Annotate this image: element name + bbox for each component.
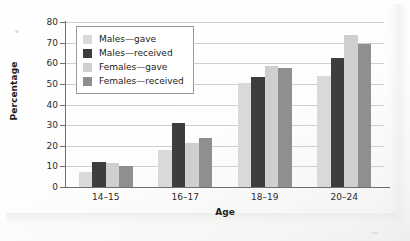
bar <box>172 123 186 187</box>
y-axis-tick-label: 80 <box>34 18 58 27</box>
chart-legend: Males—gaveMales—receivedFemales—gaveFema… <box>76 26 194 94</box>
y-axis-tick-mark <box>60 43 66 44</box>
legend-row: Males—received <box>83 46 184 60</box>
legend-label: Males—received <box>99 49 173 58</box>
y-axis-tick-mark <box>60 84 66 85</box>
legend-row: Males—gave <box>83 32 184 46</box>
bar <box>92 162 106 187</box>
bar <box>317 76 331 187</box>
x-axis-title: Age <box>66 207 384 217</box>
bar <box>331 58 345 187</box>
x-axis-tick-label: 20–24 <box>309 192 379 202</box>
y-axis-tick-mark <box>60 63 66 64</box>
bar <box>278 68 292 187</box>
gridline <box>66 187 384 188</box>
y-axis-tick-mark <box>60 166 66 167</box>
y-axis-title: Percentage <box>9 46 19 136</box>
legend-row: Females—received <box>83 74 184 88</box>
bar <box>79 172 93 187</box>
y-axis-tick-label: 20 <box>34 142 58 151</box>
bar <box>119 166 133 187</box>
legend-label: Females—received <box>99 77 184 86</box>
x-axis-tick-label: 14–15 <box>71 192 141 202</box>
legend-swatch <box>83 63 92 72</box>
y-axis-tick-label: 60 <box>34 59 58 68</box>
x-axis-tick-label: 16–17 <box>150 192 220 202</box>
bar <box>344 35 358 187</box>
legend-swatch <box>83 77 92 86</box>
y-axis-tick-mark <box>60 125 66 126</box>
legend-swatch <box>83 49 92 58</box>
y-axis-tick-mark <box>60 22 66 23</box>
bar <box>185 143 199 187</box>
y-axis-tick-mark <box>60 146 66 147</box>
y-axis-tick-label: 30 <box>34 121 58 130</box>
gridline <box>66 22 384 23</box>
legend-swatch <box>83 35 92 44</box>
y-axis-tick-label: 70 <box>34 39 58 48</box>
y-axis-tick-label: 40 <box>34 101 58 110</box>
y-axis-tick-labels: 01020304050607080 <box>30 0 58 241</box>
grouped-bar-chart: Percentage 01020304050607080 14–1516–171… <box>0 0 410 241</box>
y-axis-tick-mark <box>60 105 66 106</box>
y-axis-tick-mark <box>60 187 66 188</box>
legend-label: Males—gave <box>99 35 156 44</box>
legend-label: Females—gave <box>99 63 167 72</box>
bar <box>158 150 172 187</box>
bar <box>106 163 120 187</box>
y-axis-tick-label: 0 <box>34 183 58 192</box>
bar <box>238 83 252 187</box>
y-axis-tick-label: 50 <box>34 80 58 89</box>
bar <box>199 138 213 188</box>
bar <box>265 66 279 187</box>
legend-row: Females—gave <box>83 60 184 74</box>
y-axis-tick-label: 10 <box>34 162 58 171</box>
x-axis-tick-label: 18–19 <box>230 192 300 202</box>
bar <box>358 44 372 187</box>
bar <box>251 77 265 187</box>
